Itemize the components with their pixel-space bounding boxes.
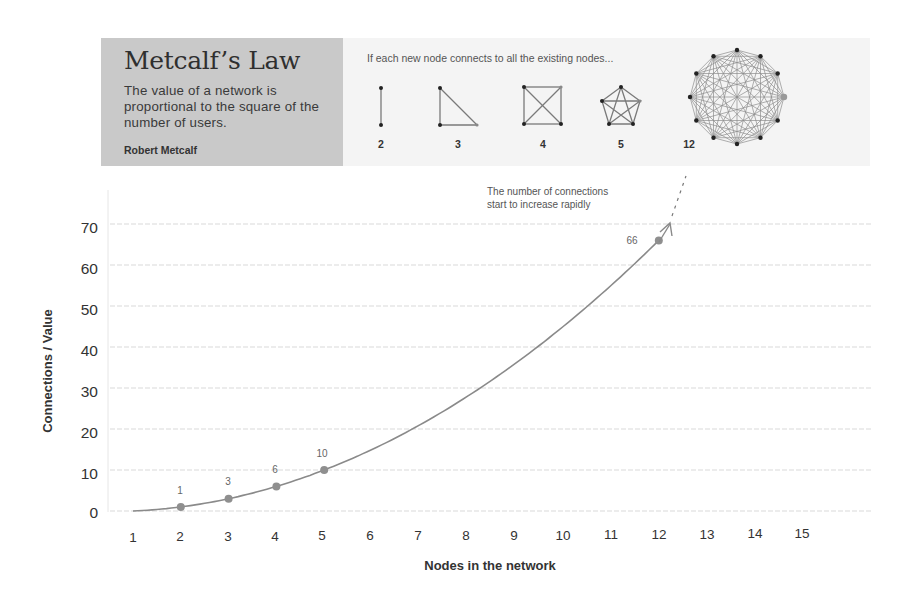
x-tick-1: 1 xyxy=(129,530,137,545)
y-tick-50: 50 xyxy=(52,301,98,319)
x-tick-10: 10 xyxy=(555,528,570,543)
y-tick-60: 60 xyxy=(52,260,98,278)
point-label-6: 6 xyxy=(272,464,278,475)
x-tick-3: 3 xyxy=(224,529,232,544)
chart-area xyxy=(0,0,909,601)
connections-curve xyxy=(133,240,659,511)
dashed-continuation xyxy=(672,176,686,216)
x-tick-7: 7 xyxy=(414,528,422,543)
x-tick-8: 8 xyxy=(462,528,470,543)
data-point xyxy=(320,466,328,474)
x-tick-11: 11 xyxy=(604,527,618,542)
data-point xyxy=(272,482,280,490)
y-tick-20: 20 xyxy=(52,424,98,442)
x-tick-14: 14 xyxy=(747,526,762,541)
x-tick-6: 6 xyxy=(366,528,374,543)
point-label-1: 1 xyxy=(177,485,183,496)
y-tick-30: 30 xyxy=(52,383,98,401)
x-tick-15: 15 xyxy=(794,526,809,541)
y-tick-40: 40 xyxy=(52,342,98,360)
y-tick-0: 0 xyxy=(52,504,98,522)
arrow-icon xyxy=(659,223,672,242)
data-point xyxy=(225,495,233,503)
annotation: The number of connections start to incre… xyxy=(487,186,608,211)
x-axis-label: Nodes in the network xyxy=(424,558,555,573)
annotation-line-1: The number of connections xyxy=(487,186,608,199)
x-tick-9: 9 xyxy=(510,528,518,543)
x-tick-13: 13 xyxy=(699,527,714,542)
annotation-line-2: start to increase rapidly xyxy=(487,199,608,212)
y-tick-10: 10 xyxy=(52,465,98,483)
data-point xyxy=(177,503,185,511)
point-label-3: 3 xyxy=(225,476,231,487)
x-tick-5: 5 xyxy=(318,528,326,543)
x-tick-12: 12 xyxy=(651,527,666,542)
y-tick-70: 70 xyxy=(52,219,98,237)
point-label-66: 66 xyxy=(626,235,637,246)
x-tick-2: 2 xyxy=(176,529,184,544)
y-axis-label: Connections / Value xyxy=(40,309,55,433)
point-label-10: 10 xyxy=(316,448,327,459)
x-tick-4: 4 xyxy=(271,529,279,544)
